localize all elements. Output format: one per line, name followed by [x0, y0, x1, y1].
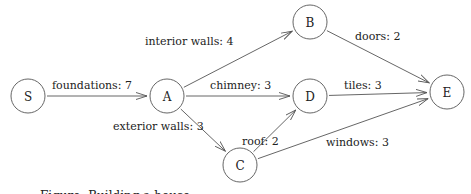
- edge-d-e: [329, 93, 427, 96]
- edge-label-s-a: foundations: 7: [52, 79, 132, 92]
- edge-label-b-e: doors: 2: [355, 30, 400, 43]
- node-d: D: [293, 79, 327, 113]
- node-label: E: [443, 86, 452, 100]
- node-label: A: [162, 90, 172, 104]
- edge-label-a-c: exterior walls: 3: [113, 120, 204, 133]
- edge-label-c-d: roof: 2: [242, 135, 279, 148]
- edge-label-d-e: tiles: 3: [344, 79, 382, 92]
- node-label: D: [305, 90, 315, 104]
- project-graph: SABDCE foundations: 7interior walls: 4ch…: [0, 0, 471, 194]
- node-b: B: [293, 5, 327, 39]
- edge-c-e: [258, 99, 428, 159]
- node-label: S: [24, 90, 32, 104]
- edge-label-c-e: windows: 3: [326, 136, 389, 149]
- node-e: E: [430, 75, 464, 109]
- node-s: S: [11, 79, 45, 113]
- node-c: C: [223, 148, 257, 182]
- node-label: C: [235, 159, 244, 173]
- node-label: B: [306, 16, 315, 30]
- node-a: A: [150, 79, 184, 113]
- edge-label-a-d: chimney: 3: [210, 79, 271, 92]
- edge-label-a-b: interior walls: 4: [145, 35, 234, 48]
- figure-caption: Figure: Building a house: [40, 189, 190, 194]
